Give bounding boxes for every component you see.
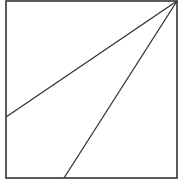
line-to-left-edge xyxy=(6,1,177,117)
line-to-bottom-edge xyxy=(64,1,177,178)
geometric-diagram xyxy=(0,0,181,185)
square-outline xyxy=(6,1,177,178)
